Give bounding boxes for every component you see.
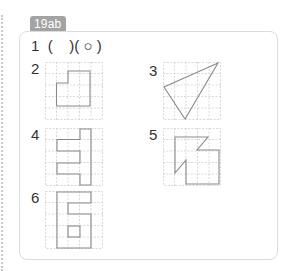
figure-3: [163, 62, 221, 120]
figure-2: [45, 62, 103, 120]
answer-text-1: ( )( ○ ): [48, 37, 102, 54]
item-number-2: 2: [31, 60, 39, 77]
figure-6: [45, 191, 103, 249]
grid-figure-5: [163, 128, 221, 186]
item-number-4: 4: [31, 126, 39, 143]
item-number-3: 3: [149, 62, 157, 79]
item-number-1: 1: [31, 37, 39, 54]
section-badge: 19ab: [30, 16, 66, 32]
grid-figure-3: [163, 62, 221, 120]
figure-4: [45, 128, 103, 186]
item-number-6: 6: [31, 189, 39, 206]
answer-line-1: 1 ( )( ○ ): [31, 37, 102, 54]
item-number-5: 5: [149, 126, 157, 143]
figure-5: [163, 128, 221, 186]
grid-figure-2: [45, 62, 103, 120]
grid-figure-6: [45, 191, 103, 249]
grid-figure-4: [45, 128, 103, 186]
dotted-margin-rule: [1, 15, 3, 271]
